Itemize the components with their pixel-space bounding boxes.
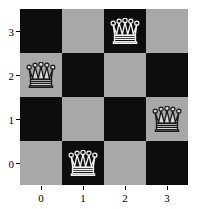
x-tick-mark-1 bbox=[83, 186, 84, 190]
board-cell-2-2[interactable] bbox=[104, 53, 146, 97]
chess-queen-icon bbox=[26, 62, 56, 88]
y-tick-label-2: 1 bbox=[2, 115, 14, 126]
x-tick-label-2: 2 bbox=[117, 193, 133, 204]
board-cell-1-0[interactable] bbox=[62, 141, 104, 185]
chess-queen-icon bbox=[152, 106, 182, 132]
board-grid bbox=[20, 9, 188, 185]
x-tick-label-0: 0 bbox=[33, 193, 49, 204]
board-cell-1-1[interactable] bbox=[62, 97, 104, 141]
board-cell-3-1[interactable] bbox=[146, 97, 188, 141]
board-cell-3-0[interactable] bbox=[146, 141, 188, 185]
board-cell-2-0[interactable] bbox=[104, 141, 146, 185]
board-cell-0-0[interactable] bbox=[20, 141, 62, 185]
board-cell-0-2[interactable] bbox=[20, 53, 62, 97]
board-cell-1-3[interactable] bbox=[62, 9, 104, 53]
chess-queen-icon bbox=[110, 18, 140, 44]
chess-board bbox=[20, 9, 188, 185]
board-cell-1-2[interactable] bbox=[62, 53, 104, 97]
board-cell-3-3[interactable] bbox=[146, 9, 188, 53]
y-tick-label-3: 0 bbox=[2, 159, 14, 170]
x-tick-mark-2 bbox=[125, 186, 126, 190]
board-cell-2-3[interactable] bbox=[104, 9, 146, 53]
board-cell-3-2[interactable] bbox=[146, 53, 188, 97]
board-cell-0-3[interactable] bbox=[20, 9, 62, 53]
x-tick-label-3: 3 bbox=[159, 193, 175, 204]
board-cell-2-1[interactable] bbox=[104, 97, 146, 141]
y-tick-label-1: 2 bbox=[2, 71, 14, 82]
x-tick-mark-0 bbox=[41, 186, 42, 190]
x-tick-mark-3 bbox=[167, 186, 168, 190]
chess-queen-icon bbox=[68, 150, 98, 176]
x-tick-label-1: 1 bbox=[75, 193, 91, 204]
chessboard-figure: 3 2 1 0 0 1 2 3 bbox=[0, 0, 202, 209]
y-tick-label-0: 3 bbox=[2, 27, 14, 38]
board-cell-0-1[interactable] bbox=[20, 97, 62, 141]
